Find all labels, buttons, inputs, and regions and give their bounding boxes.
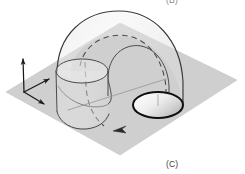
adjacent-panel-label: (B) <box>166 0 178 5</box>
cylinder-top-ellipse <box>56 59 108 83</box>
ground-plane <box>6 23 237 155</box>
panel-label-c: (C) <box>166 159 178 169</box>
exit-face-ellipse <box>133 92 183 118</box>
vertical-cylinder <box>56 59 109 129</box>
figure-panel-c: (B) (C) <box>0 0 245 174</box>
figure-illustration <box>0 0 245 174</box>
